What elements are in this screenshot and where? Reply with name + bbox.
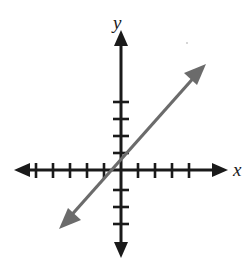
plotted-line-arrow-start [59,208,81,229]
y-axis-group [113,30,129,258]
graph-canvas [0,0,252,278]
y-axis-label: y [113,13,121,32]
x-axis-label: x [233,160,241,179]
plotted-line-group [59,64,206,229]
x-axis-arrow-left [14,163,30,177]
y-axis-arrow-down [114,242,128,258]
plotted-line-arrow-end [184,64,206,85]
x-axis-arrow-right [212,163,228,177]
scan-speck-artifact [186,42,188,44]
coordinate-plane-figure: y x [0,0,252,278]
plotted-line-segment [68,74,197,219]
